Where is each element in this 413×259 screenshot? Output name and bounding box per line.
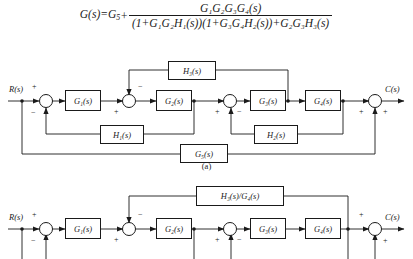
figure-root: G(s)=G5+ G₁G₂G₃G₄(s) (1+G₁G₂H₁(s))(1+G₃G… bbox=[0, 0, 413, 259]
formula-fraction: G₁G₂G₃G₄(s) (1+G₁G₂H₁(s))(1+G₃G₄H₂(s))+G… bbox=[129, 2, 332, 29]
block-h1: H₁(s) bbox=[100, 125, 144, 144]
output-label-c: C(s) bbox=[385, 84, 400, 94]
summing-junction-1 bbox=[39, 94, 53, 108]
sign-sum3-plus: + bbox=[215, 108, 220, 116]
summing-junction-4 bbox=[368, 94, 382, 108]
sign-b-sum4-plus-a: + bbox=[359, 211, 364, 219]
block-g3: G₃(s) bbox=[250, 90, 286, 111]
block-diagram-b: G₁(s) G₂(s) G₃(s) G₄(s) H₃(s)/G₄(s) + − … bbox=[0, 182, 413, 259]
summing-junction-3 bbox=[223, 94, 237, 108]
transfer-function-formula: G(s)=G5+ G₁G₂G₃G₄(s) (1+G₁G₂H₁(s))(1+G₃G… bbox=[0, 2, 413, 29]
sign-b-sum4-plus-b: + bbox=[383, 237, 388, 245]
input-label-r: R(s) bbox=[9, 84, 23, 94]
sign-sum1-plus: + bbox=[32, 83, 37, 91]
summing-junction-2 bbox=[122, 94, 136, 108]
sign-sum2-minus: − bbox=[138, 83, 143, 91]
block-h2: H₂(s) bbox=[254, 125, 298, 144]
summing-junction-b1 bbox=[39, 222, 53, 236]
sign-b-sum2-minus: − bbox=[138, 211, 143, 219]
summing-junction-b4 bbox=[368, 222, 382, 236]
formula-plus: + bbox=[120, 10, 128, 22]
sign-sum4-plus-b: + bbox=[383, 108, 388, 116]
sign-b-sum1-plus: + bbox=[32, 211, 37, 219]
output-label-b-c: C(s) bbox=[385, 212, 400, 222]
sign-b-sum1-minus: − bbox=[31, 237, 36, 245]
block-h3: H₃(s) bbox=[168, 61, 216, 80]
sign-b-sum2-plus: + bbox=[114, 236, 119, 244]
block-g1: G₁(s) bbox=[65, 90, 101, 111]
sign-b-sum3-minus: − bbox=[237, 236, 242, 244]
block-b-h3-over-g4: H₃(s)/G₄(s) bbox=[196, 186, 284, 206]
block-b-g4: G₄(s) bbox=[305, 218, 341, 239]
sign-b-sum3-plus: + bbox=[215, 236, 220, 244]
formula-denominator: (1+G₁G₂H₁(s))(1+G₃G₄H₂(s))+G₂G₃H₃(s) bbox=[129, 15, 332, 29]
input-label-b-r: R(s) bbox=[9, 212, 23, 222]
sign-sum1-minus: − bbox=[31, 109, 36, 117]
sign-sum4-plus-a: + bbox=[359, 108, 364, 116]
caption-a: (a) bbox=[0, 161, 413, 171]
formula-numerator: G₁G₂G₃G₄(s) bbox=[129, 2, 332, 15]
block-g2: G₂(s) bbox=[156, 90, 192, 111]
block-b-g3: G₃(s) bbox=[250, 218, 286, 239]
summing-junction-b3 bbox=[223, 222, 237, 236]
summing-junction-b2 bbox=[122, 222, 136, 236]
formula-lhs: G(s)=G5 bbox=[80, 8, 120, 22]
block-b-g2: G₂(s) bbox=[156, 218, 192, 239]
sign-sum3-minus: − bbox=[237, 108, 242, 116]
block-b-g1: G₁(s) bbox=[65, 218, 101, 239]
sign-sum2-plus: + bbox=[114, 108, 119, 116]
block-diagram-a: G₁(s) G₂(s) G₃(s) G₄(s) G₅(s) H₁(s) H₂(s… bbox=[0, 58, 413, 163]
block-g4: G₄(s) bbox=[305, 90, 341, 111]
